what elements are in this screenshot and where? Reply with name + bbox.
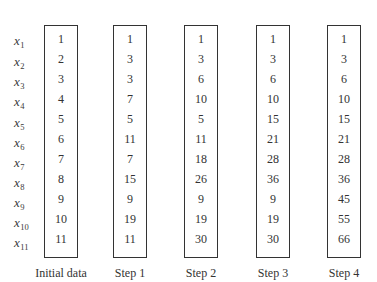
- cell: 18: [185, 152, 217, 166]
- cell: 30: [185, 232, 217, 246]
- cell: 1: [114, 32, 146, 46]
- cell: 28: [257, 152, 289, 166]
- caption-step-4: Step 4: [299, 266, 377, 280]
- cell: 6: [185, 72, 217, 86]
- cell: 28: [328, 152, 360, 166]
- cell: 5: [114, 112, 146, 126]
- var-label: x11: [14, 236, 28, 254]
- cell: 9: [257, 192, 289, 206]
- cell: 6: [328, 72, 360, 86]
- var-label: x7: [14, 156, 25, 174]
- cell: 21: [328, 132, 360, 146]
- cell: 30: [257, 232, 289, 246]
- column-initial-data: 1 2 3 4 5 6 7 8 9 10 11: [44, 25, 78, 258]
- column-step-3: 1 3 6 10 15 21 28 36 9 19 30: [256, 25, 290, 258]
- cell: 36: [257, 172, 289, 186]
- cell: 3: [185, 52, 217, 66]
- cell: 3: [114, 72, 146, 86]
- cell: 4: [45, 92, 77, 106]
- var-label: x5: [14, 116, 25, 134]
- cell: 11: [114, 232, 146, 246]
- cell: 19: [257, 212, 289, 226]
- var-label: x6: [14, 136, 25, 154]
- cell: 36: [328, 172, 360, 186]
- var-label: x10: [14, 216, 29, 234]
- cell: 10: [257, 92, 289, 106]
- var-label: x2: [14, 55, 25, 73]
- cell: 3: [114, 52, 146, 66]
- cell: 19: [185, 212, 217, 226]
- cell: 10: [328, 92, 360, 106]
- cell: 2: [45, 52, 77, 66]
- var-label: x9: [14, 196, 25, 214]
- cell: 1: [185, 32, 217, 46]
- cell: 3: [257, 52, 289, 66]
- cell: 5: [45, 112, 77, 126]
- column-step-4: 1 3 6 10 15 21 28 36 45 55 66: [327, 25, 361, 258]
- column-step-2: 1 3 6 10 5 11 18 26 9 19 30: [184, 25, 218, 258]
- var-label: x3: [14, 75, 25, 93]
- cell: 8: [45, 172, 77, 186]
- cell: 15: [114, 172, 146, 186]
- cell: 10: [185, 92, 217, 106]
- cell: 9: [45, 192, 77, 206]
- cell: 6: [257, 72, 289, 86]
- cell: 3: [328, 52, 360, 66]
- cell: 1: [328, 32, 360, 46]
- column-step-1: 1 3 3 7 5 11 7 15 9 19 11: [113, 25, 147, 258]
- cell: 3: [45, 72, 77, 86]
- cell: 55: [328, 212, 360, 226]
- cell: 6: [45, 132, 77, 146]
- cell: 1: [45, 32, 77, 46]
- var-label: x1: [14, 34, 25, 52]
- cell: 1: [257, 32, 289, 46]
- cell: 9: [185, 192, 217, 206]
- cell: 10: [45, 212, 77, 226]
- cell: 11: [114, 132, 146, 146]
- cell: 45: [328, 192, 360, 206]
- cell: 15: [257, 112, 289, 126]
- cell: 66: [328, 232, 360, 246]
- var-label: x4: [14, 95, 25, 113]
- var-label: x8: [14, 176, 25, 194]
- cell: 26: [185, 172, 217, 186]
- cell: 5: [185, 112, 217, 126]
- cell: 15: [328, 112, 360, 126]
- cell: 19: [114, 212, 146, 226]
- cell: 11: [185, 132, 217, 146]
- cell: 7: [114, 152, 146, 166]
- cell: 9: [114, 192, 146, 206]
- cell: 21: [257, 132, 289, 146]
- cell: 7: [45, 152, 77, 166]
- cell: 7: [114, 92, 146, 106]
- cell: 11: [45, 232, 77, 246]
